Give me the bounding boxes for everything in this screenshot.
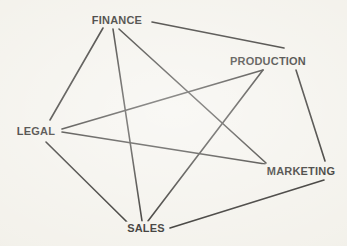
edge-finance-sales (113, 29, 142, 221)
node-label-production[interactable]: PRODUCTION (230, 55, 306, 67)
edge-legal-sales (46, 142, 127, 222)
diagram-canvas: FINANCEPRODUCTIONLEGALMARKETINGSALES (0, 0, 347, 246)
edge-layer (0, 0, 347, 246)
node-label-sales[interactable]: SALES (127, 222, 165, 234)
edge-legal-marketing (62, 132, 265, 164)
edge-finance-legal (50, 28, 103, 120)
edge-legal-production (62, 70, 263, 129)
edges-group (46, 22, 325, 228)
edge-sales-marketing (170, 180, 324, 228)
edge-finance-production (152, 22, 284, 48)
node-label-legal[interactable]: LEGAL (17, 125, 55, 137)
node-label-finance[interactable]: FINANCE (92, 14, 142, 26)
node-label-marketing[interactable]: MARKETING (267, 165, 335, 177)
edge-production-marketing (296, 70, 325, 161)
